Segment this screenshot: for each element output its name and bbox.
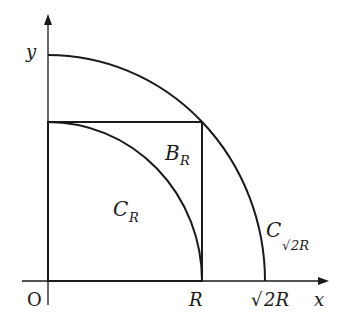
- svg-text:C: C: [113, 197, 128, 221]
- label-c-sqrt2r: C √ 2R: [266, 218, 309, 253]
- svg-text:√: √: [282, 238, 291, 253]
- svg-text:R: R: [128, 210, 139, 225]
- x-axis-label: x: [314, 289, 324, 310]
- svg-text:R: R: [179, 153, 190, 168]
- svg-text:2R: 2R: [263, 289, 289, 310]
- svg-text:B: B: [164, 141, 180, 165]
- svg-text:√: √: [251, 289, 263, 310]
- y-axis-label: y: [25, 41, 37, 62]
- origin-label: O: [27, 289, 42, 310]
- tick-label-sqrt2r: √ 2R: [251, 289, 289, 310]
- svg-text:2R: 2R: [290, 238, 309, 253]
- quarter-circle-diagram: y O x R √ 2R B R C R C √ 2R: [0, 0, 347, 333]
- y-axis-arrow-icon: [44, 14, 52, 25]
- svg-text:C: C: [266, 218, 281, 242]
- label-b-r: B R: [164, 141, 190, 168]
- tick-label-r: R: [188, 289, 203, 310]
- x-axis-arrow-icon: [318, 277, 329, 285]
- label-c-r: C R: [113, 197, 139, 225]
